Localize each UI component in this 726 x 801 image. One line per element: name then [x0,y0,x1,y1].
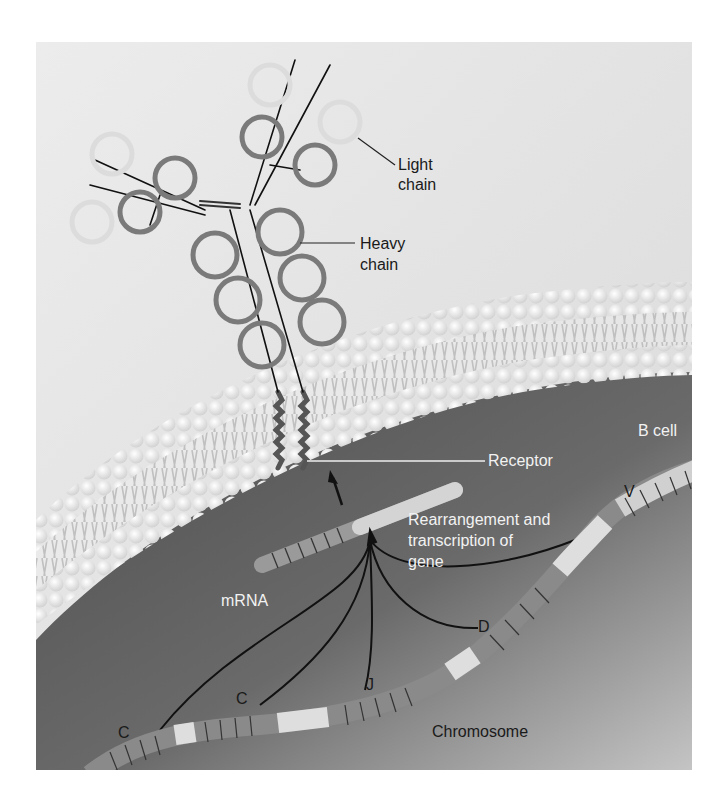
label-receptor: Receptor [488,452,554,469]
label-segment-j: J [366,676,374,693]
label-segment-c2: C [236,690,248,707]
label-chromosome: Chromosome [432,723,528,740]
label-heavy-chain-2: chain [360,256,398,273]
label-rearrangement-2: transcription of [408,532,513,549]
label-segment-d: D [478,618,490,635]
label-mrna: mRNA [221,592,268,609]
label-segment-c1: C [118,724,130,741]
label-heavy-chain-1: Heavy [360,235,405,252]
label-rearrangement-1: Rearrangement and [408,511,550,528]
b-cell-receptor-diagram: Light chain Heavy chain B cell Receptor … [0,0,726,801]
label-light-chain-2: chain [398,176,436,193]
label-light-chain-1: Light [398,156,433,173]
label-rearrangement-3: gene [408,553,444,570]
label-b-cell: B cell [638,422,677,439]
label-segment-v: V [624,483,635,500]
